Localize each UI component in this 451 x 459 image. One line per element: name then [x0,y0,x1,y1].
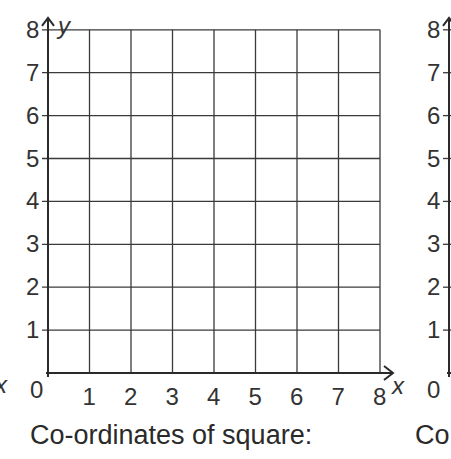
y-axis-label: y [58,14,70,38]
right-y-tick-label: 7 [427,61,440,85]
x-tick-label: 4 [207,385,220,409]
x-tick-label: 6 [290,385,303,409]
right-y-tick-label: 4 [427,189,440,213]
right-y-tick-label: 1 [427,318,440,342]
left-caption: Co-ordinates of square: [30,420,312,451]
x-tick-label: 8 [373,385,386,409]
right-y-tick-label: 5 [427,147,440,171]
right-y-tick-label: 6 [427,104,440,128]
y-tick-label: 8 [26,18,39,42]
right-y-tick-label: 8 [427,18,440,42]
x-tick-label: 1 [83,385,96,409]
right-y-tick-label: 2 [427,275,440,299]
y-tick-label: 1 [26,318,39,342]
right-origin-label: 0 [427,378,440,402]
y-tick-label: 5 [26,147,39,171]
y-tick-label: 7 [26,61,39,85]
y-tick-label: 4 [26,189,39,213]
right-caption: Co [415,420,450,451]
origin-label: 0 [30,378,43,402]
right-y-tick-label: 3 [427,232,440,256]
edge-x-label: x [0,373,7,397]
x-tick-label: 3 [166,385,179,409]
y-tick-label: 6 [26,104,39,128]
y-tick-label: 3 [26,232,39,256]
x-axis-label: x [392,374,404,398]
x-tick-label: 2 [124,385,137,409]
y-tick-label: 2 [26,275,39,299]
x-tick-label: 5 [249,385,262,409]
x-tick-label: 7 [332,385,345,409]
